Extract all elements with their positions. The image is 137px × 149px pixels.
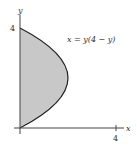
equation-label: x = y(4 − y) — [67, 35, 115, 44]
y-axis-label: y — [17, 6, 23, 15]
x-axis-label: x — [126, 124, 131, 133]
x-tick-label-4: 4 — [113, 134, 118, 143]
y-tick-label-4: 4 — [10, 24, 15, 33]
region-diagram: y 4 x 4 x = y(4 − y) — [0, 0, 137, 149]
